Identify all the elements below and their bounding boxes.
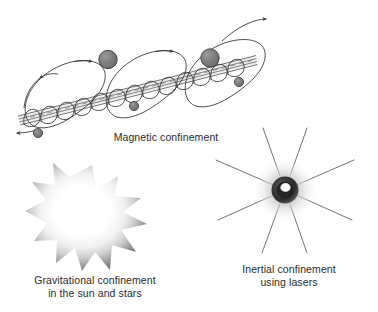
pellet-hot-spot (280, 183, 290, 192)
caption-line: Inertial confinement (200, 263, 378, 276)
caption-inertial-confinement: Inertial confinement using lasers (200, 263, 378, 288)
caption-line: Magnetic confinement (60, 131, 272, 144)
caption-line: Gravitational confinement (0, 274, 190, 287)
caption-line: in the sun and stars (0, 287, 190, 300)
caption-magnetic-confinement: Magnetic confinement (60, 131, 272, 144)
caption-gravitational-confinement: Gravitational confinement in the sun and… (0, 274, 190, 299)
fusion-confinement-figure: Magnetic confinement Gravitational confi… (0, 0, 378, 312)
caption-line: using lasers (200, 276, 378, 289)
